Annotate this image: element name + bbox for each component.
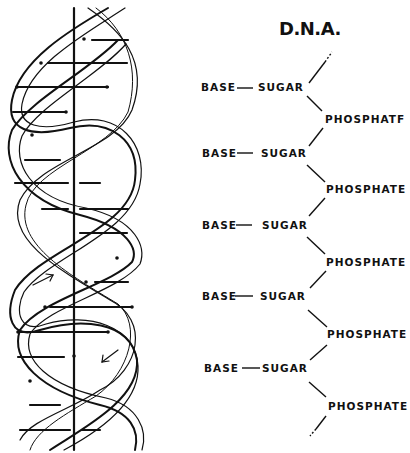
base-label: BASE (201, 81, 236, 93)
base-label: BASE (202, 219, 237, 231)
base-label: BASE (202, 147, 237, 159)
phosphate-label: PHOSPHATE (326, 183, 406, 195)
phosphate-label: PHOSPHATE (327, 328, 407, 340)
phosphate-label: PHOSPHATE (326, 256, 406, 268)
sugar-label: SUGAR (260, 290, 306, 302)
base-label: BASE (202, 290, 237, 302)
sugar-label: SUGAR (258, 81, 304, 93)
sugar-label: SUGAR (262, 362, 308, 374)
phosphate-label: PHOSPHATE (328, 400, 408, 412)
sugar-label: SUGAR (262, 219, 308, 231)
base-label: BASE (204, 362, 239, 374)
phosphate-label: PHOSPHATF (325, 113, 405, 125)
sugar-label: SUGAR (261, 147, 307, 159)
